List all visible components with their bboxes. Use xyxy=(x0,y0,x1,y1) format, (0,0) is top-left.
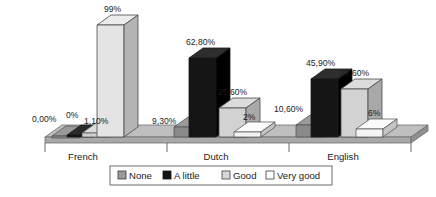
legend-swatch-good xyxy=(222,171,230,179)
legend-label-good: Good xyxy=(233,170,256,181)
legend-label-a-little: A little xyxy=(174,170,200,181)
category-labels: French Dutch English xyxy=(68,151,359,162)
category-label-english: English xyxy=(327,151,358,162)
category-label-french: French xyxy=(68,151,98,162)
category-label-dutch: Dutch xyxy=(203,151,228,162)
legend-item-good[interactable]: Good xyxy=(222,170,256,181)
legend-swatch-none xyxy=(118,171,126,179)
label-french-very-good: 99% xyxy=(104,4,122,14)
label-english-a-little: 45,90% xyxy=(306,58,336,68)
bar-group-dutch: 9,30% 62,80% 25,60% 2% xyxy=(152,37,275,137)
legend-swatch-a-little xyxy=(163,171,171,179)
label-french-a-little: 0% xyxy=(66,110,79,120)
floor-front-face xyxy=(45,137,411,143)
legend-label-none: None xyxy=(129,170,152,181)
label-french-none: 0,00% xyxy=(32,114,57,124)
label-dutch-very-good: 2% xyxy=(243,112,256,122)
label-dutch-none: 9,30% xyxy=(152,116,177,126)
label-dutch-a-little: 62,80% xyxy=(186,37,216,47)
label-english-none: 10,60% xyxy=(274,104,304,114)
legend-item-very-good[interactable]: Very good xyxy=(266,170,320,181)
bar-group-french: 0,00% 0% 1,10% 99% xyxy=(32,4,138,138)
label-english-very-good: 6% xyxy=(368,108,381,118)
legend-swatch-very-good xyxy=(266,171,274,179)
label-english-good: 37,60% xyxy=(340,68,370,78)
label-french-good: 1,10% xyxy=(84,116,109,126)
label-dutch-good: 25,60% xyxy=(218,87,248,97)
legend-item-none[interactable]: None xyxy=(118,170,152,181)
chart-container: 0,00% 0% 1,10% 99% xyxy=(0,0,436,197)
chart-legend: None A little Good Very good xyxy=(110,166,332,185)
legend-label-very-good: Very good xyxy=(277,170,320,181)
column-chart-3d: 0,00% 0% 1,10% 99% xyxy=(0,0,436,197)
legend-item-a-little[interactable]: A little xyxy=(163,170,200,181)
